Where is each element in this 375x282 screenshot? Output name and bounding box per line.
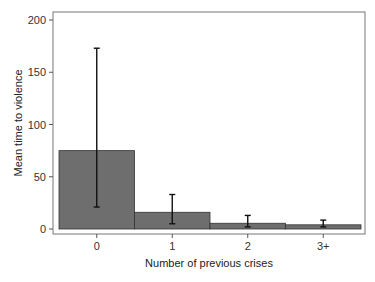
x-axis-title: Number of previous crises bbox=[145, 257, 273, 269]
bar-chart: 050100150200Mean time to violence0123+Nu… bbox=[0, 0, 375, 282]
x-tick-label: 3+ bbox=[317, 240, 330, 252]
x-tick-label: 0 bbox=[94, 240, 100, 252]
x-axis: 0123+ bbox=[94, 234, 330, 252]
y-axis-title: Mean time to violence bbox=[12, 70, 24, 177]
x-tick-label: 1 bbox=[169, 240, 175, 252]
y-tick-label: 200 bbox=[28, 14, 46, 26]
y-tick-label: 0 bbox=[40, 223, 46, 235]
y-axis: 050100150200 bbox=[28, 14, 53, 235]
y-tick-label: 50 bbox=[34, 171, 46, 183]
y-tick-label: 150 bbox=[28, 66, 46, 78]
bars bbox=[59, 151, 361, 229]
y-tick-label: 100 bbox=[28, 119, 46, 131]
x-tick-label: 2 bbox=[245, 240, 251, 252]
